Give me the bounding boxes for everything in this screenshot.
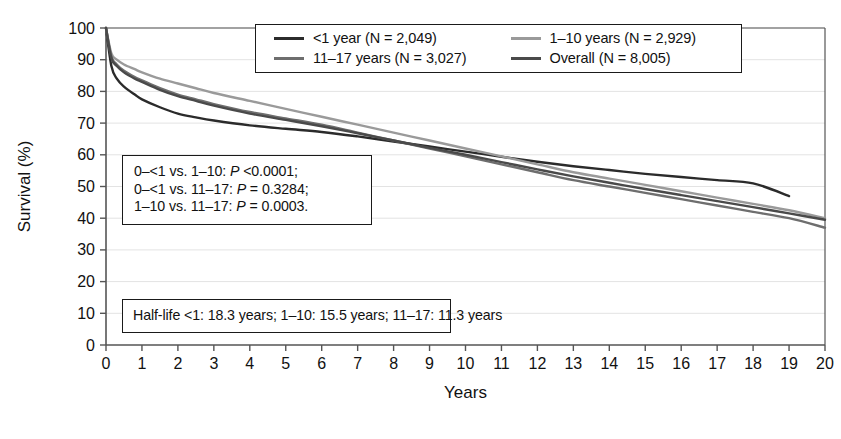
svg-text:13: 13: [564, 355, 582, 372]
legend-label: Overall (N = 8,005): [550, 50, 671, 66]
svg-text:17: 17: [708, 355, 726, 372]
legend-entry: 11–17 years (N = 3,027): [262, 50, 499, 66]
svg-text:9: 9: [425, 355, 434, 372]
chart-legend: <1 year (N = 2,049)1–10 years (N = 2,929…: [255, 24, 742, 73]
legend-color-swatch: [274, 57, 304, 60]
y-axis-tick-labels: 0102030405060708090100: [68, 20, 95, 354]
legend-color-swatch: [511, 37, 541, 40]
legend-label: 1–10 years (N = 2,929): [550, 30, 697, 46]
svg-text:14: 14: [600, 355, 618, 372]
svg-text:8: 8: [389, 355, 398, 372]
svg-text:7: 7: [353, 355, 362, 372]
svg-text:1: 1: [137, 355, 146, 372]
svg-text:100: 100: [68, 20, 95, 37]
legend-entry: 1–10 years (N = 2,929): [499, 30, 736, 46]
svg-text:2: 2: [173, 355, 182, 372]
y-axis-title: Survival (%): [15, 141, 34, 233]
x-axis-ticks: [106, 345, 825, 351]
svg-text:4: 4: [245, 355, 254, 372]
svg-text:40: 40: [77, 210, 95, 227]
svg-text:0: 0: [102, 355, 111, 372]
svg-text:12: 12: [529, 355, 547, 372]
legend-color-swatch: [511, 57, 541, 60]
svg-text:30: 30: [77, 241, 95, 258]
legend-grid: <1 year (N = 2,049)1–10 years (N = 2,929…: [262, 30, 735, 66]
svg-text:10: 10: [457, 355, 475, 372]
annotation-line: 0–<1 vs. 11–17: P = 0.3284;: [134, 181, 362, 199]
annotation-line: Half-life <1: 18.3 years; 1–10: 15.5 yea…: [133, 307, 441, 325]
svg-text:20: 20: [77, 273, 95, 290]
x-axis-title: Years: [444, 383, 487, 402]
svg-text:60: 60: [77, 146, 95, 163]
svg-text:0: 0: [86, 337, 95, 354]
svg-text:6: 6: [317, 355, 326, 372]
half-life-annotation-box: Half-life <1: 18.3 years; 1–10: 15.5 yea…: [122, 299, 451, 333]
svg-text:50: 50: [77, 178, 95, 195]
legend-label: <1 year (N = 2,049): [313, 30, 437, 46]
svg-text:16: 16: [672, 355, 690, 372]
svg-text:11: 11: [493, 355, 510, 372]
annotation-line: 1–10 vs. 11–17: P = 0.0003.: [134, 198, 362, 216]
p-value-annotation-box: 0–<1 vs. 1–10: P <0.0001;0–<1 vs. 11–17:…: [122, 155, 372, 225]
svg-text:18: 18: [744, 355, 762, 372]
svg-text:3: 3: [209, 355, 218, 372]
legend-color-swatch: [274, 37, 304, 40]
svg-text:20: 20: [816, 355, 834, 372]
legend-entry: Overall (N = 8,005): [499, 50, 736, 66]
svg-text:80: 80: [77, 83, 95, 100]
x-axis-tick-labels: 01234567891011121314151617181920: [102, 355, 834, 372]
svg-text:5: 5: [281, 355, 290, 372]
svg-text:70: 70: [77, 115, 95, 132]
legend-label: 11–17 years (N = 3,027): [313, 50, 466, 66]
svg-text:90: 90: [77, 51, 95, 68]
svg-text:10: 10: [77, 305, 95, 322]
y-axis-ticks: [100, 28, 106, 345]
legend-entry: <1 year (N = 2,049): [262, 30, 499, 46]
svg-text:15: 15: [636, 355, 654, 372]
survival-curve-figure: 01234567891011121314151617181920 0102030…: [0, 0, 841, 439]
annotation-line: 0–<1 vs. 1–10: P <0.0001;: [134, 163, 362, 181]
svg-text:19: 19: [780, 355, 798, 372]
